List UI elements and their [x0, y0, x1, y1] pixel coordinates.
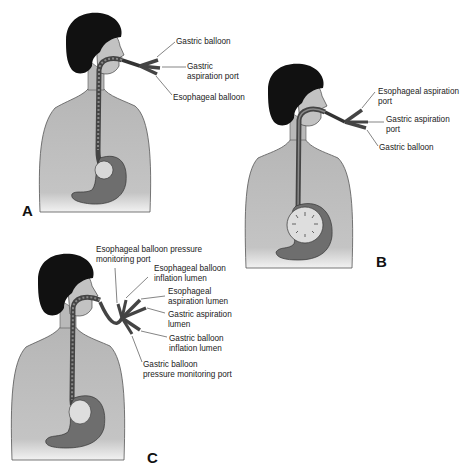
label-c-gastric-balloon-pressure-monitoring-port: Gastric balloon pressure monitoring port: [143, 360, 232, 379]
esophageal-balloon-tamponade-figure: Gastric balloon Gastric aspiration port …: [0, 0, 461, 471]
label-b-gastric-aspiration-port: Gastric aspiration port: [386, 115, 450, 134]
label-c-gastric-aspiration-lumen: Gastric aspiration lumen: [168, 310, 232, 329]
label-a-gastric-aspiration-port: Gastric aspiration port: [187, 62, 239, 81]
panel-c-illustration: [11, 254, 167, 460]
panel-letter-c: C: [147, 449, 158, 466]
label-b-esophageal-aspiration-port: Esophageal aspiration port: [378, 87, 459, 106]
label-c-esophageal-aspiration-lumen: Esophageal aspiration lumen: [168, 287, 228, 306]
panel-b-illustration: [245, 64, 384, 268]
panel-letter-a: A: [22, 202, 33, 219]
panel-a-illustration: [39, 13, 186, 212]
label-a-gastric-balloon: Gastric balloon: [176, 37, 231, 47]
label-a-esophageal-balloon: Esophageal balloon: [173, 93, 245, 103]
label-c-esophageal-balloon-inflation-lumen: Esophageal balloon inflation lumen: [154, 264, 226, 283]
label-c-esophageal-balloon-pressure-monitoring-port: Esophageal balloon pressure monitoring p…: [96, 245, 202, 264]
label-c-gastric-balloon-inflation-lumen: Gastric balloon inflation lumen: [169, 334, 224, 353]
panel-letter-b: B: [376, 253, 387, 270]
label-b-gastric-balloon: Gastric balloon: [379, 143, 434, 153]
